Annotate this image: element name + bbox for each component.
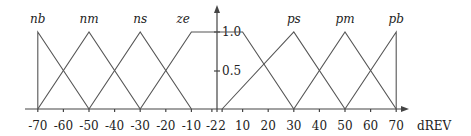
y-tick-label-0.5: 0.5: [222, 64, 241, 78]
x-tick-label: 30: [286, 119, 301, 133]
x-tick-label: -2: [206, 119, 218, 133]
set-label-ze: ze: [176, 12, 190, 26]
x-tick-label: 10: [235, 119, 250, 133]
mf-nm: [38, 32, 140, 109]
x-tick-label: 40: [312, 119, 327, 133]
mf-pm: [294, 32, 396, 109]
x-tick-label: 50: [337, 119, 352, 133]
set-label-pb: pb: [389, 12, 404, 26]
set-label-pm: pm: [335, 12, 354, 26]
x-tick-label: -60: [54, 119, 73, 133]
mf-ns: [89, 32, 191, 109]
set-label-ns: ns: [133, 12, 147, 26]
set-label-ps: ps: [287, 12, 301, 26]
membership-function-chart: -70-60-50-40-30-20-10-2210203040506070 1…: [0, 0, 471, 136]
y-axis: [214, 5, 220, 112]
x-tick-label: -70: [28, 119, 47, 133]
x-tick-label: 70: [389, 119, 404, 133]
x-axis-label: dREV: [417, 119, 451, 133]
x-tick-label: -30: [131, 119, 150, 133]
x-tick-label: 20: [261, 119, 276, 133]
x-tick-label: -40: [105, 119, 124, 133]
set-label-nm: nm: [79, 12, 98, 26]
set-label-nb: nb: [30, 12, 45, 26]
x-tick-labels: -70-60-50-40-30-20-10-2210203040506070: [28, 119, 404, 133]
x-tick-label: -20: [156, 119, 175, 133]
x-tick-label: -50: [79, 119, 98, 133]
x-tick-label: -10: [182, 119, 201, 133]
x-tick-label: 60: [363, 119, 378, 133]
x-tick-label: 2: [218, 119, 226, 133]
